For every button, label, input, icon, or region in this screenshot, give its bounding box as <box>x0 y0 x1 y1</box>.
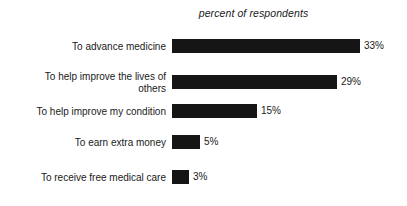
bar-fill <box>172 75 337 89</box>
bar-fill <box>172 170 189 184</box>
bar <box>172 135 200 149</box>
bar-value-label: 15% <box>261 104 281 118</box>
bar-chart: percent of respondents To advance medici… <box>0 0 407 206</box>
bar-category-label: To receive free medical care <box>0 172 166 185</box>
bar-value-label: 3% <box>193 170 207 184</box>
bar-fill <box>172 104 257 118</box>
bar-category-label: To earn extra money <box>0 137 166 150</box>
bar-value-label: 5% <box>204 135 218 149</box>
bar-value-label: 33% <box>364 39 384 53</box>
bar-fill <box>172 135 200 149</box>
bar-category-label: To advance medicine <box>0 41 166 54</box>
bar-category-label: To help improve the lives of others <box>0 71 166 96</box>
bar <box>172 104 257 118</box>
bar <box>172 39 360 53</box>
bar <box>172 75 337 89</box>
bar-value-label: 29% <box>341 75 361 89</box>
bar-fill <box>172 39 360 53</box>
bar-category-label: To help improve my condition <box>0 106 166 119</box>
plot-area: To advance medicine33%To help improve th… <box>0 30 407 206</box>
bar <box>172 170 189 184</box>
chart-title: percent of respondents <box>0 7 407 19</box>
